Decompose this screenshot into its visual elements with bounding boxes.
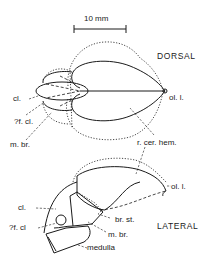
dorsal-label-f-cl: ?f. cl. [14, 117, 33, 126]
lateral-label-medulla: medulla [87, 243, 116, 252]
lateral-label-m-br: m. br. [108, 230, 128, 239]
dorsal-label-r-cer-hem: r. cer. hem. [137, 138, 177, 147]
lateral-view: LATERAL cl. ?f. cl ol. l. br. st. [9, 147, 198, 253]
lateral-view-label: LATERAL [157, 221, 198, 231]
lateral-label-br-st: br. st. [115, 215, 135, 224]
dorsal-label-cl: cl. [13, 94, 21, 103]
diagram-canvas: 10 mm DORSAL cl. ?f. cl. m. br. [0, 0, 216, 266]
brain-anatomy-figure: 10 mm DORSAL cl. ?f. cl. m. br. [0, 0, 216, 266]
dorsal-label-m-br: m. br. [10, 140, 30, 149]
scale-bar: 10 mm [74, 14, 126, 33]
lateral-label-f-cl: ?f. cl [9, 223, 26, 232]
dorsal-view: DORSAL cl. ?f. cl. m. br. ol. l. r. cer. [10, 42, 196, 149]
lateral-label-ol-l: ol. l. [171, 182, 186, 191]
lateral-label-cl: cl. [18, 203, 26, 212]
scale-bar-label: 10 mm [84, 14, 109, 23]
dorsal-view-label: DORSAL [157, 51, 196, 61]
dorsal-label-ol-l: ol. l. [169, 93, 184, 102]
